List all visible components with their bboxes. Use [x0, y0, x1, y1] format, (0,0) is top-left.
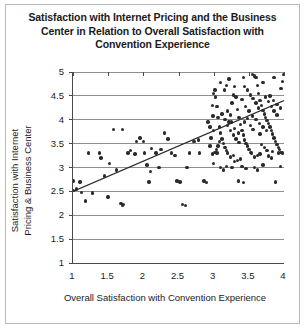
data-point: [229, 113, 232, 116]
data-point: [279, 106, 282, 109]
data-point: [265, 129, 268, 132]
y-axis-title: Satisfaction with Internet Pricing & Bus…: [9, 86, 34, 276]
data-point: [240, 98, 243, 101]
data-point: [216, 116, 219, 119]
plot-area: [72, 72, 284, 264]
data-point: [270, 156, 273, 159]
x-tick-label: 1: [57, 271, 87, 281]
data-point: [230, 120, 233, 123]
x-tick: [179, 72, 180, 76]
data-point: [154, 151, 157, 154]
x-tick: [284, 72, 285, 76]
data-point: [240, 165, 243, 168]
y-tick: [69, 191, 73, 192]
data-point: [227, 77, 230, 80]
data-point: [277, 151, 280, 154]
data-point: [163, 131, 166, 134]
data-point: [84, 199, 87, 202]
data-point: [216, 144, 219, 147]
data-point: [159, 148, 162, 151]
data-point: [173, 154, 176, 157]
y-tick: [69, 95, 73, 96]
data-point: [218, 125, 221, 128]
x-tick-label: 2: [127, 271, 157, 281]
data-point: [215, 105, 218, 108]
data-point: [220, 112, 223, 115]
data-point: [251, 128, 254, 131]
figure-container: Satisfaction with Internet Pricing and t…: [0, 0, 305, 329]
y-tick-label: 4: [42, 115, 64, 125]
data-point: [106, 195, 109, 198]
x-tick: [143, 72, 144, 76]
x-tick: [214, 72, 215, 76]
data-point: [178, 180, 181, 183]
data-point: [135, 140, 138, 143]
y-tick: [69, 263, 73, 264]
x-tick-label: 1.5: [92, 271, 122, 281]
y-tick: [69, 119, 73, 120]
data-point: [275, 103, 278, 106]
x-tick-label: 4: [268, 271, 298, 281]
data-point: [157, 166, 160, 169]
data-point: [91, 191, 94, 194]
data-point: [149, 170, 152, 173]
data-point: [73, 179, 75, 182]
data-point: [166, 137, 169, 140]
data-point: [126, 151, 129, 154]
data-point: [242, 133, 245, 136]
data-point: [258, 132, 261, 135]
x-tick: [73, 72, 74, 76]
data-point: [121, 128, 124, 131]
data-point: [244, 105, 247, 108]
data-point: [281, 151, 284, 154]
x-axis-title: Overall Satisfaction with Convention Exp…: [40, 292, 290, 303]
data-point: [211, 114, 214, 117]
y-tick-label: 1.5: [42, 234, 64, 244]
y-tick: [69, 239, 73, 240]
data-point: [264, 95, 267, 98]
data-point: [78, 180, 81, 183]
data-point: [142, 140, 145, 143]
y-tick-label: 1: [42, 258, 64, 268]
data-point: [261, 163, 264, 166]
data-point: [256, 168, 259, 171]
data-point: [265, 149, 268, 152]
data-point: [257, 106, 260, 109]
data-point: [185, 166, 188, 169]
data-point: [246, 88, 249, 91]
data-point: [274, 180, 277, 183]
y-tick: [69, 167, 73, 168]
data-point: [192, 140, 195, 143]
data-point: [237, 179, 240, 182]
data-point: [249, 124, 252, 127]
data-point: [87, 151, 90, 154]
data-point: [230, 166, 233, 169]
data-point: [208, 144, 211, 147]
data-point: [240, 129, 243, 132]
data-point: [251, 114, 254, 117]
x-tick-label: 2.5: [163, 271, 193, 281]
data-point: [261, 125, 264, 128]
data-point: [222, 168, 225, 171]
data-point: [206, 120, 209, 123]
y-tick-label: 5: [42, 67, 64, 77]
data-point: [223, 88, 226, 91]
data-point: [147, 180, 150, 183]
data-point: [239, 157, 242, 160]
chart-title: Satisfaction with Internet Pricing and t…: [14, 11, 291, 52]
y-tick-label: 3: [42, 163, 64, 173]
data-point: [230, 101, 233, 104]
plot-inner: [73, 72, 284, 263]
x-tick: [249, 72, 250, 76]
data-point: [258, 152, 261, 155]
y-tick: [69, 215, 73, 216]
data-point: [244, 167, 247, 170]
data-point: [138, 136, 141, 139]
data-point: [145, 163, 148, 166]
data-point: [197, 138, 200, 141]
data-point: [237, 131, 240, 134]
y-tick-label: 2: [42, 210, 64, 220]
y-tick-label: 3.5: [42, 139, 64, 149]
data-point: [251, 97, 254, 100]
data-point: [115, 168, 118, 171]
